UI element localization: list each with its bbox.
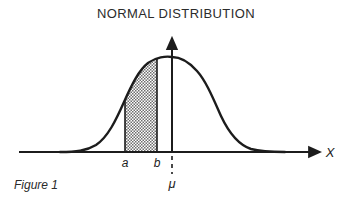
shaded-area-between-a-and-b xyxy=(125,40,157,152)
distribution-plot: X a b μ xyxy=(0,0,352,207)
mean-label: μ xyxy=(167,176,175,191)
normal-distribution-figure: NORMAL DISTRIBUTION xyxy=(0,0,352,207)
upper-bound-label: b xyxy=(154,156,161,170)
x-axis-label: X xyxy=(325,145,336,160)
figure-caption: Figure 1 xyxy=(14,178,58,192)
lower-bound-label: a xyxy=(122,156,129,170)
